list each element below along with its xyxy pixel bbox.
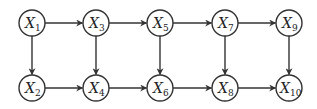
node-x5: X5 <box>147 10 173 36</box>
node-x2: X2 <box>19 75 45 101</box>
node-x4: X4 <box>83 75 109 101</box>
node-x1: X1 <box>19 10 45 36</box>
node-x3: X3 <box>83 10 109 36</box>
node-x10: X10 <box>276 75 302 101</box>
node-x8: X8 <box>212 75 238 101</box>
node-x6: X6 <box>147 75 173 101</box>
node-x7: X7 <box>212 10 238 36</box>
node-x9: X9 <box>276 10 302 36</box>
directed-graph: X1X3X5X7X9X2X4X6X8X10 <box>0 0 317 109</box>
